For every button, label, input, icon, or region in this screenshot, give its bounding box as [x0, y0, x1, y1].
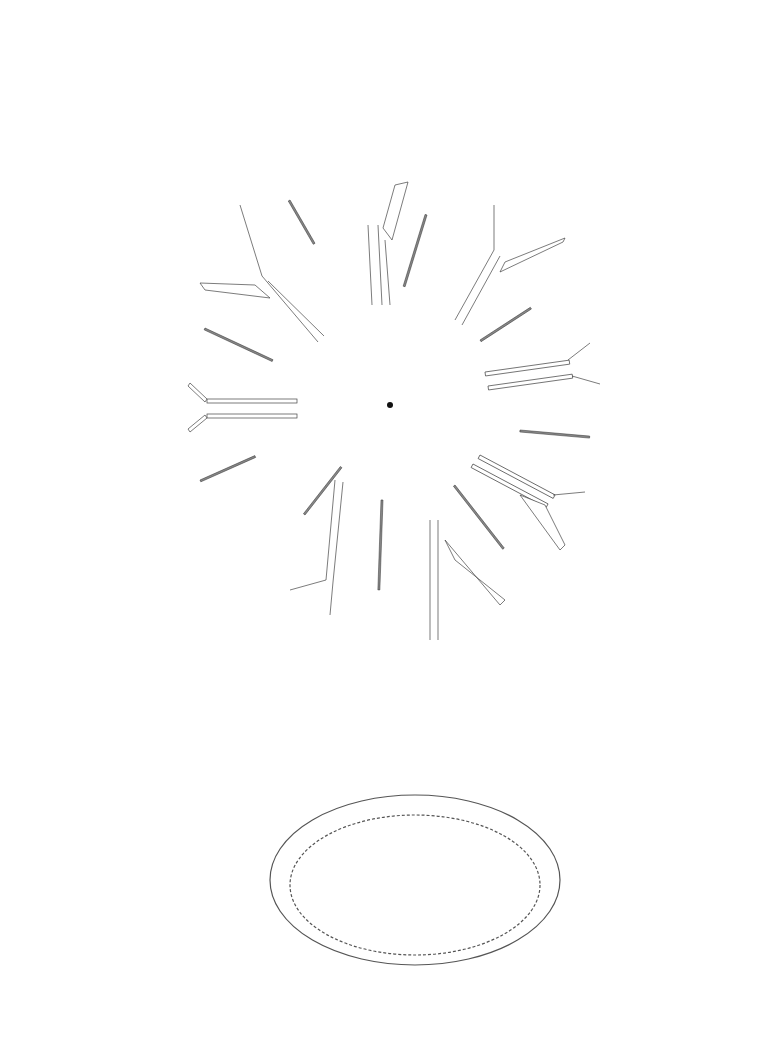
raker-member-7 [455, 205, 565, 325]
raker-member-1 [188, 383, 297, 432]
legend-item-c [87, 774, 97, 784]
raker-member-5 [368, 182, 408, 305]
legend-item-a [87, 754, 97, 764]
raker-member-3 [200, 205, 324, 342]
raker-members [188, 182, 600, 640]
raker-plan-drawing [0, 0, 760, 1056]
legend-item-b [87, 764, 97, 774]
plan-center-point [387, 402, 393, 408]
raker-member-9 [485, 343, 600, 390]
axonometric-drawing [270, 795, 560, 965]
steel-straight-members [200, 200, 590, 590]
raker-member-11 [471, 455, 585, 550]
legend [87, 744, 97, 784]
